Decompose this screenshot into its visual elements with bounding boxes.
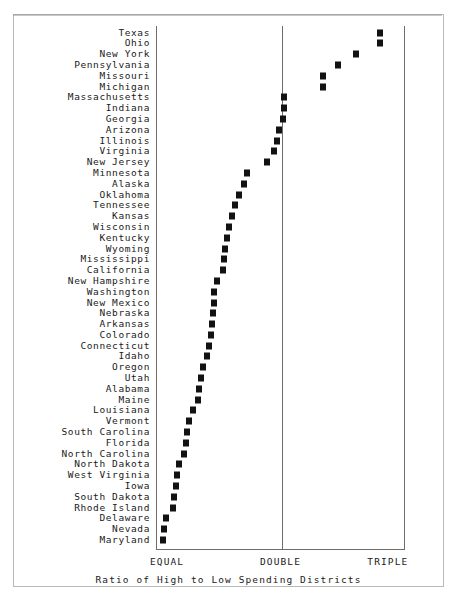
- state-label: Alaska: [0, 179, 150, 189]
- data-point-marker: [186, 418, 192, 425]
- state-label: Idaho: [0, 351, 150, 361]
- state-label: Alabama: [0, 384, 150, 394]
- data-point-marker: [160, 536, 166, 543]
- state-label: Delaware: [0, 513, 150, 523]
- state-label: New Jersey: [0, 157, 150, 167]
- state-label: North Carolina: [0, 449, 150, 459]
- data-point-marker: [229, 213, 235, 220]
- data-point-marker: [209, 321, 215, 328]
- state-label: West Virginia: [0, 470, 150, 480]
- state-label: Arizona: [0, 125, 150, 135]
- state-label: Vermont: [0, 416, 150, 426]
- data-point-marker: [208, 331, 214, 338]
- state-label: Virginia: [0, 146, 150, 156]
- data-point-marker: [200, 364, 206, 371]
- data-point-marker: [163, 515, 169, 522]
- state-label: Kentucky: [0, 233, 150, 243]
- state-label: Colorado: [0, 330, 150, 340]
- state-label: New Hampshire: [0, 276, 150, 286]
- state-label: Indiana: [0, 103, 150, 113]
- state-label: North Dakota: [0, 459, 150, 469]
- data-point-marker: [281, 94, 287, 101]
- data-point-marker: [264, 159, 270, 166]
- state-label: Texas: [0, 28, 150, 38]
- state-label: Georgia: [0, 114, 150, 124]
- state-label: Wyoming: [0, 244, 150, 254]
- data-point-marker: [176, 461, 182, 468]
- state-label: New Mexico: [0, 298, 150, 308]
- data-point-marker: [190, 407, 196, 414]
- state-label: Pennsylvania: [0, 60, 150, 70]
- state-label: Illinois: [0, 136, 150, 146]
- data-point-marker: [174, 472, 180, 479]
- state-label: Maine: [0, 395, 150, 405]
- data-point-marker: [224, 234, 230, 241]
- data-point-marker: [274, 137, 280, 144]
- data-point-marker: [377, 29, 383, 36]
- state-label: Connecticut: [0, 341, 150, 351]
- state-label: Iowa: [0, 481, 150, 491]
- state-label: Arkansas: [0, 319, 150, 329]
- data-point-marker: [241, 180, 247, 187]
- state-label: South Dakota: [0, 492, 150, 502]
- state-label-column: TexasOhioNew YorkPennsylvaniaMissouriMic…: [0, 26, 150, 550]
- data-point-marker: [222, 245, 228, 252]
- state-label: New York: [0, 49, 150, 59]
- data-point-marker: [198, 375, 204, 382]
- data-point-marker: [211, 288, 217, 295]
- x-axis-caption: Ratio of High to Low Spending Districts: [0, 574, 457, 585]
- data-point-marker: [320, 83, 326, 90]
- data-point-marker: [236, 191, 242, 198]
- data-point-marker: [226, 223, 232, 230]
- data-point-marker: [353, 51, 359, 58]
- state-label: Maryland: [0, 535, 150, 545]
- data-point-marker: [183, 439, 189, 446]
- xtick-triple: TRIPLE: [367, 556, 408, 567]
- state-label: California: [0, 265, 150, 275]
- state-label: Nebraska: [0, 308, 150, 318]
- data-point-marker: [181, 450, 187, 457]
- state-label: Missouri: [0, 71, 150, 81]
- state-label: Oregon: [0, 362, 150, 372]
- state-label: Oklahoma: [0, 190, 150, 200]
- data-point-marker: [210, 310, 216, 317]
- data-point-marker: [170, 504, 176, 511]
- data-point-marker: [320, 72, 326, 79]
- xtick-equal: EQUAL: [150, 556, 184, 567]
- state-label: Ohio: [0, 38, 150, 48]
- state-label: Tennessee: [0, 200, 150, 210]
- data-point-marker: [377, 40, 383, 47]
- data-point-marker: [271, 148, 277, 155]
- state-label: Kansas: [0, 211, 150, 221]
- data-point-marker: [244, 170, 250, 177]
- state-label: Louisiana: [0, 405, 150, 415]
- data-point-marker: [214, 277, 220, 284]
- data-point-marker: [204, 353, 210, 360]
- data-point-marker: [211, 299, 217, 306]
- data-point-marker: [196, 385, 202, 392]
- state-label: Rhode Island: [0, 503, 150, 513]
- state-label: Washington: [0, 287, 150, 297]
- state-label: South Carolina: [0, 427, 150, 437]
- state-label: Mississippi: [0, 254, 150, 264]
- data-point-marker: [281, 105, 287, 112]
- data-point-marker: [335, 62, 341, 69]
- data-point-marker: [161, 526, 167, 533]
- state-label: Massachusetts: [0, 92, 150, 102]
- data-point-marker: [171, 493, 177, 500]
- data-point-marker: [195, 396, 201, 403]
- state-label: Michigan: [0, 82, 150, 92]
- state-label: Minnesota: [0, 168, 150, 178]
- xtick-double: DOUBLE: [260, 556, 301, 567]
- state-label: Florida: [0, 438, 150, 448]
- data-point-marker: [220, 267, 226, 274]
- dot-plot-figure: TexasOhioNew YorkPennsylvaniaMissouriMic…: [0, 0, 457, 614]
- data-point-marker: [276, 126, 282, 133]
- data-point-marker: [206, 342, 212, 349]
- data-point-marker: [184, 429, 190, 436]
- plot-area: [156, 26, 405, 550]
- state-label: Nevada: [0, 524, 150, 534]
- data-point-marker: [232, 202, 238, 209]
- data-point-marker: [221, 256, 227, 263]
- data-point-marker: [173, 482, 179, 489]
